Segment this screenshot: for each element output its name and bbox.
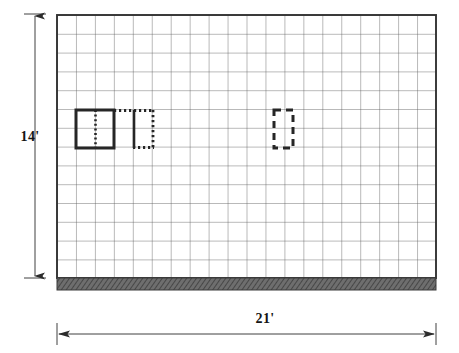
dimension-height: [24, 14, 46, 278]
ground-band: [57, 278, 436, 290]
dimension-height-label: 14': [10, 129, 50, 145]
ground-hatch-fill: [57, 278, 436, 290]
drawing-canvas: [0, 0, 459, 353]
elevation-drawing: 14' 21': [0, 0, 459, 353]
dimension-width-label: 21': [225, 311, 305, 327]
